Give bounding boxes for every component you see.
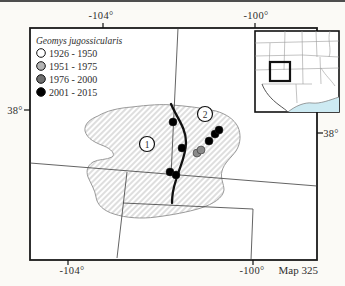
figure-page: { "figure": { "species_name": "Geomys ju… (0, 0, 345, 286)
legend-label-1926-1950: 1926 - 1950 (49, 48, 97, 59)
occurrence-dot (215, 126, 223, 134)
legend-species-title: Geomys jugossicularis (36, 36, 123, 46)
legend-label-1976-2000: 1976 - 2000 (49, 74, 97, 85)
legend-symbol-1951-1975 (37, 62, 46, 71)
inset-locator-map (255, 31, 339, 112)
top-left-longitude-label: -104° (89, 10, 114, 21)
map-number: Map 325 (279, 264, 319, 276)
top-right-longitude-label: -100° (244, 10, 269, 21)
region-2-number: 2 (203, 110, 208, 120)
legend-symbol-1976-2000 (37, 75, 46, 84)
bottom-right-longitude-label: -100° (240, 265, 265, 276)
occurrence-dot (178, 144, 186, 152)
occurrence-dot (169, 118, 177, 126)
legend-label-2001-2015: 2001 - 2015 (49, 87, 97, 98)
range-map-figure: 1 2 -104° -100° -104° -100° 38° 38° Map … (0, 0, 345, 286)
occurrence-dot (205, 137, 213, 145)
left-latitude-label: 38° (7, 105, 23, 116)
range-polygon (85, 105, 240, 218)
bottom-left-longitude-label: -104° (60, 265, 85, 276)
occurrence-dot (197, 146, 205, 154)
legend-symbol-1926-1950 (37, 49, 46, 58)
occurrence-dot (172, 171, 180, 179)
right-latitude-label: 38° (323, 128, 339, 139)
legend-label-1951-1975: 1951 - 1975 (49, 61, 97, 72)
region-1-number: 1 (145, 140, 150, 150)
legend-symbol-2001-2015 (37, 88, 46, 97)
